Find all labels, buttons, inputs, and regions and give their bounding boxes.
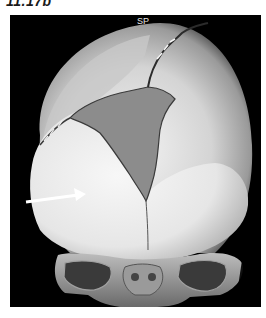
figure-label: 11.17b	[6, 0, 52, 9]
ct-skull-image: SP	[10, 15, 261, 307]
nasal-region	[123, 264, 163, 295]
sp-label: SP	[137, 16, 149, 26]
skull-render	[10, 15, 261, 307]
